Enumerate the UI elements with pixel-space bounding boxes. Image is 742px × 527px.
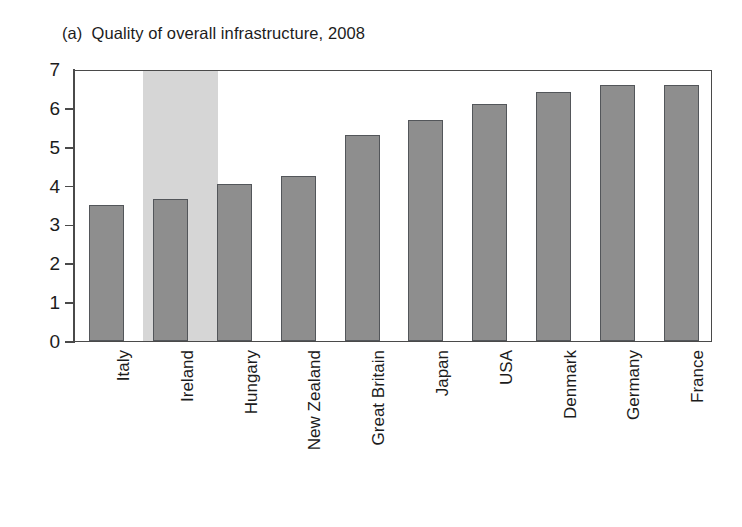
bar-hungary — [217, 184, 252, 341]
x-tick-label-ireland: Ireland — [170, 350, 187, 402]
bar-germany — [600, 85, 635, 341]
bar-great-britain — [345, 135, 380, 341]
x-tick-label-text: Germany — [625, 350, 642, 420]
y-tick-label-3: 3 — [18, 215, 60, 234]
y-tick-5 — [65, 147, 74, 149]
y-axis-tick-labels: 76543210 — [14, 0, 60, 527]
y-tick-1 — [65, 302, 74, 304]
y-tick-label-7: 7 — [18, 60, 60, 79]
x-tick-label-great-britain: Great Britain — [361, 350, 378, 445]
x-tick-label-japan: Japan — [425, 350, 442, 396]
bar-ireland — [153, 199, 188, 341]
x-tick-label-text: Ireland — [178, 350, 195, 402]
y-tick-label-6: 6 — [18, 99, 60, 118]
x-tick-label-text: USA — [497, 350, 514, 385]
x-tick-label-usa: USA — [489, 350, 506, 385]
x-tick-label-text: Italy — [114, 350, 131, 381]
bar-usa — [472, 104, 507, 341]
y-tick-6 — [65, 108, 74, 110]
y-tick-label-1: 1 — [18, 293, 60, 312]
x-tick-label-new-zealand: New Zealand — [297, 350, 314, 450]
x-tick-label-germany: Germany — [616, 350, 633, 420]
plot-area — [74, 70, 712, 342]
y-tick-4 — [65, 186, 74, 188]
y-tick-label-2: 2 — [18, 254, 60, 273]
x-tick-label-hungary: Hungary — [234, 350, 251, 414]
x-tick-label-text: France — [689, 350, 706, 403]
x-tick-label-text: Denmark — [561, 350, 578, 419]
x-tick-label-italy: Italy — [106, 350, 123, 381]
bar-japan — [408, 120, 443, 341]
bar-france — [664, 85, 699, 341]
y-tick-label-0: 0 — [18, 332, 60, 351]
y-tick-3 — [65, 225, 74, 227]
bar-new-zealand — [281, 176, 316, 341]
bars-layer — [75, 71, 711, 341]
figure: (a)Quality of overall infrastructure, 20… — [0, 0, 742, 527]
x-axis-tick-labels: ItalyIrelandHungaryNew ZealandGreat Brit… — [74, 346, 712, 521]
x-tick-label-denmark: Denmark — [553, 350, 570, 419]
x-tick-label-text: Hungary — [242, 350, 259, 414]
y-tick-2 — [65, 263, 74, 265]
x-tick-label-text: Great Britain — [370, 350, 387, 445]
chart-title-text: Quality of overall infrastructure, 2008 — [91, 24, 365, 42]
y-tick-label-5: 5 — [18, 138, 60, 157]
bar-italy — [89, 205, 124, 341]
chart-title: (a)Quality of overall infrastructure, 20… — [62, 24, 365, 43]
y-tick-label-4: 4 — [18, 177, 60, 196]
x-tick-label-text: Japan — [433, 350, 450, 396]
y-tick-0 — [65, 341, 74, 343]
x-tick-label-france: France — [680, 350, 697, 403]
chart-title-tag: (a) — [62, 24, 82, 42]
x-tick-label-text: New Zealand — [306, 350, 323, 450]
bar-denmark — [536, 92, 571, 341]
